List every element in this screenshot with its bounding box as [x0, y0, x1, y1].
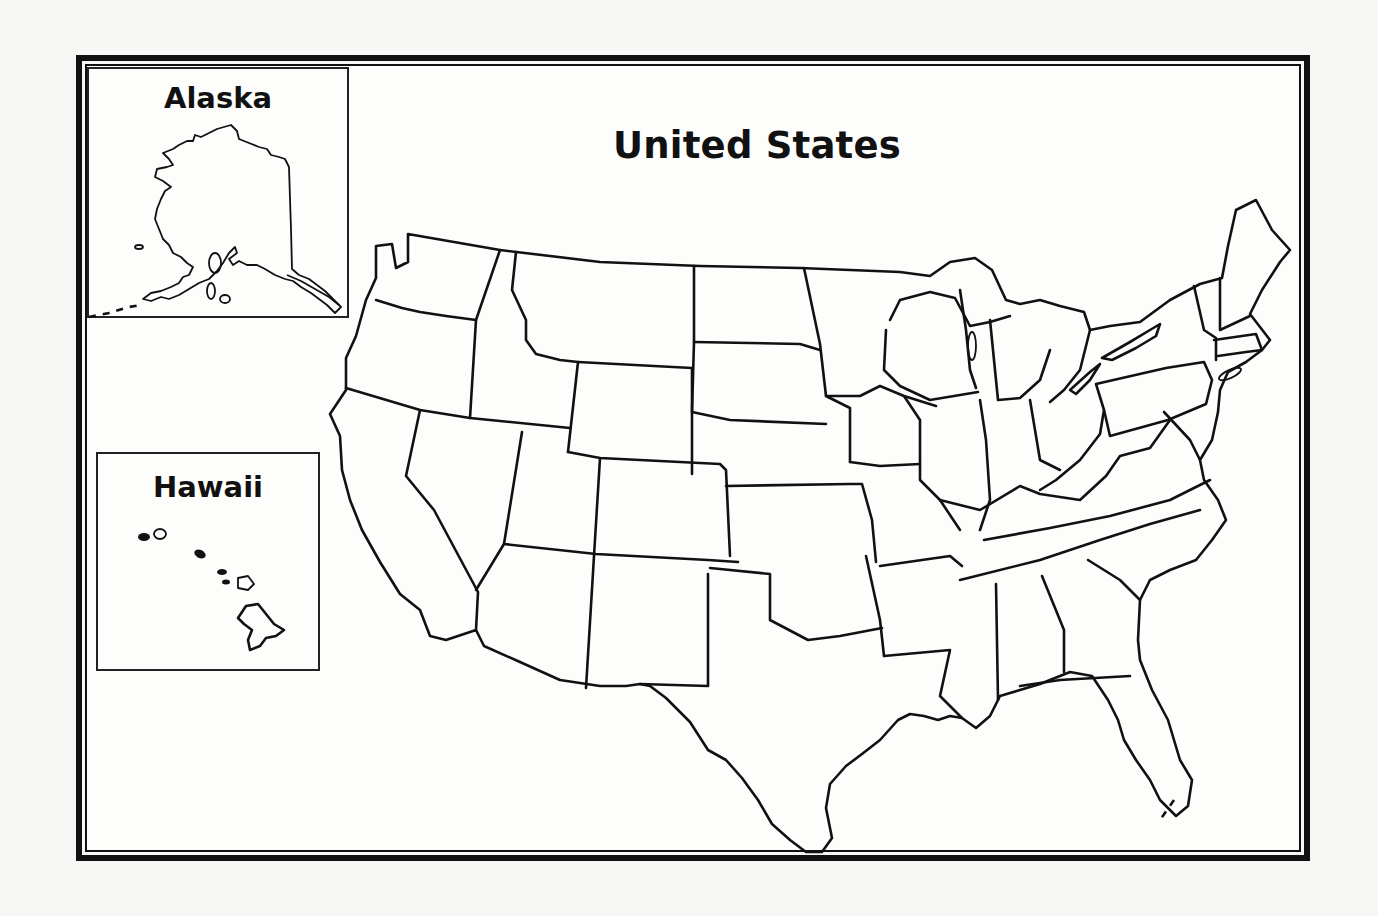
contiguous-us-map — [0, 0, 1378, 916]
